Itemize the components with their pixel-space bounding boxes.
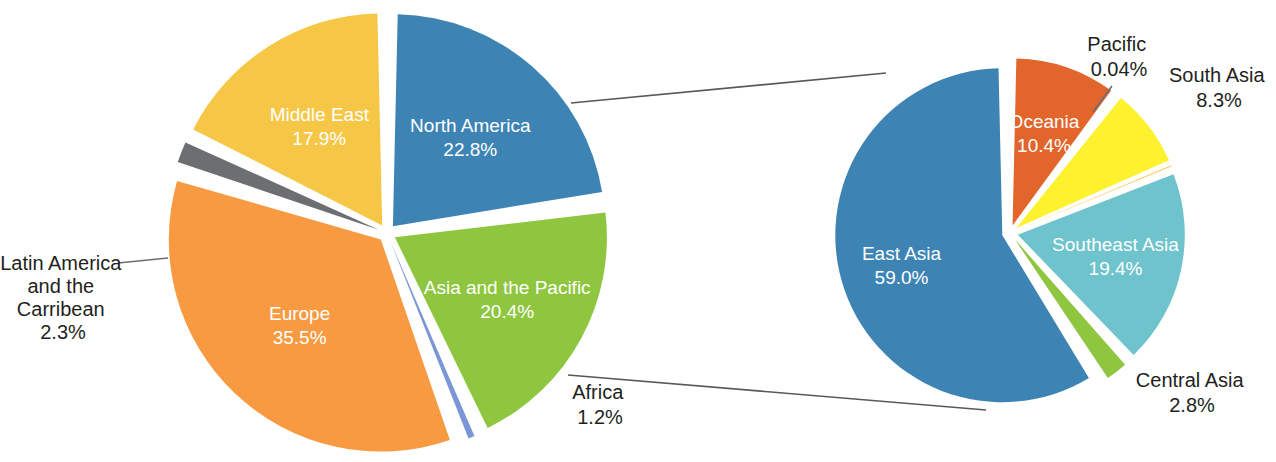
label-latin-america-and-the-carribean: Latin America and the Carribean 2.3% (0, 252, 126, 343)
label-south-asia: South Asia 8.3% (1169, 64, 1269, 111)
pie-chart-figure: North America22.8%Asia and the Pacific20… (0, 0, 1276, 462)
chart-canvas: North America22.8%Asia and the Pacific20… (0, 0, 1276, 462)
label-central-asia: Central Asia 2.8% (1136, 369, 1248, 416)
label-africa: Africa 1.2% (572, 381, 628, 428)
label-pacific: Pacific 0.04% (1087, 33, 1150, 80)
pie-asia-pacific-breakdown: Oceania10.4%Southeast Asia19.4%East Asia… (835, 58, 1184, 402)
pie-world-regions: North America22.8%Asia and the Pacific20… (169, 13, 607, 451)
connector-line-top (571, 73, 886, 103)
